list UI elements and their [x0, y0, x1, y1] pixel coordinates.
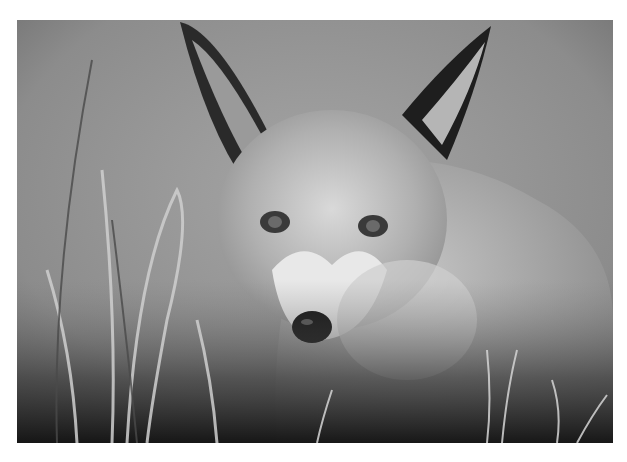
fox-illustration: [17, 20, 613, 443]
fox-photograph: [17, 20, 613, 443]
